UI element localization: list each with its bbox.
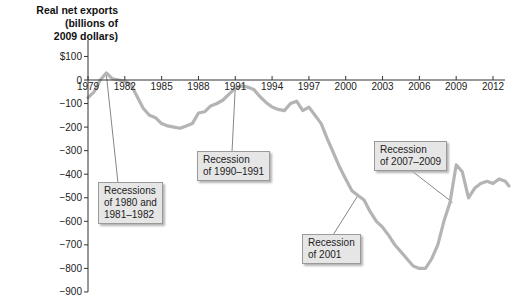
x-tick-label: 1985: [151, 81, 174, 92]
callout-leader-line: [408, 168, 453, 202]
callout-text: Recessions: [104, 185, 157, 197]
x-tick-label: 2000: [335, 81, 358, 92]
y-tick-label: −700: [59, 239, 82, 250]
callout-text: of 1980 and: [104, 197, 157, 209]
callout-text: Recession: [308, 237, 355, 249]
callout-text: of 2001: [308, 249, 355, 261]
callout-text: Recession: [380, 144, 441, 156]
x-tick-label: 1991: [224, 81, 247, 92]
x-tick-label: 2006: [408, 81, 431, 92]
y-tick-label: −800: [59, 263, 82, 274]
x-tick-label: 1982: [114, 81, 137, 92]
x-tick-label: 2003: [371, 81, 394, 92]
y-tick-label: −600: [59, 216, 82, 227]
y-tick-label: −100: [59, 98, 82, 109]
y-tick-label: −900: [59, 286, 82, 297]
y-tick-label: −300: [59, 145, 82, 156]
callout-text: of 2007–2009: [380, 156, 441, 168]
callout-recession-1980-1982: Recessions of 1980 and 1981–1982: [98, 182, 163, 224]
callout-text: of 1990–1991: [203, 166, 264, 178]
callout-recession-2001: Recession of 2001: [302, 234, 361, 264]
callout-recession-2007-2009: Recession of 2007–2009: [374, 141, 447, 171]
x-tick-label: 1997: [298, 81, 321, 92]
y-tick-label: $100: [60, 51, 83, 62]
x-tick-label: 1988: [187, 81, 210, 92]
y-tick-label: −400: [59, 169, 82, 180]
x-tick-label: 1979: [77, 81, 100, 92]
x-tick-label: 2012: [482, 81, 505, 92]
x-tick-label: 1994: [261, 81, 284, 92]
callout-text: 1981–1982: [104, 209, 157, 221]
callout-leader-line: [333, 195, 358, 235]
callout-text: Recession: [203, 154, 264, 166]
callout-leader-line: [232, 87, 235, 152]
callout-recession-1990-1991: Recession of 1990–1991: [197, 151, 270, 181]
y-tick-label: −200: [59, 122, 82, 133]
x-tick-label: 2009: [445, 81, 468, 92]
y-tick-label: −500: [59, 192, 82, 203]
